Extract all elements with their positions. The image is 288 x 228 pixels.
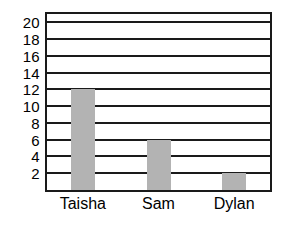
y-axis-tick-label: 20 — [23, 15, 40, 30]
gridline — [47, 55, 270, 57]
y-axis-tick-label: 6 — [31, 132, 40, 147]
x-axis-category-labels: TaishaSamDylan — [45, 194, 272, 218]
bar — [71, 89, 95, 190]
gridline — [47, 38, 270, 40]
y-axis-tick-label: 18 — [23, 32, 40, 47]
y-axis-tick-label: 12 — [23, 82, 40, 97]
x-axis-tick-label: Taisha — [60, 194, 106, 214]
y-axis-tick-label: 14 — [23, 65, 40, 80]
y-axis-tick-label: 16 — [23, 48, 40, 63]
y-axis-tick-label: 10 — [23, 99, 40, 114]
bar-chart: 2018161412108642 TaishaSamDylan — [0, 0, 288, 228]
bar — [222, 173, 246, 190]
x-axis-tick-label: Dylan — [214, 194, 255, 214]
gridline — [47, 72, 270, 74]
y-axis-tick-label: 4 — [31, 149, 40, 164]
gridline — [47, 21, 270, 23]
plot-area — [45, 12, 272, 192]
y-axis-tick-label: 2 — [31, 166, 40, 181]
x-axis-tick-label: Sam — [142, 194, 175, 214]
y-axis-tick-labels: 2018161412108642 — [0, 12, 43, 192]
y-axis-tick-label: 8 — [31, 115, 40, 130]
bar — [147, 140, 171, 190]
